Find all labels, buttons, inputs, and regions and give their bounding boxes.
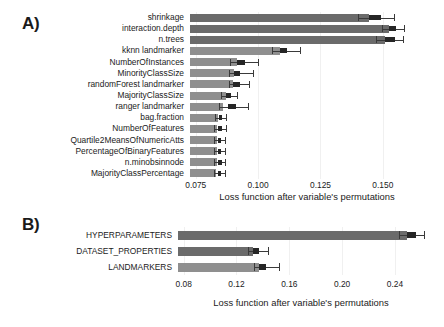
whisker-cap-low: [229, 81, 230, 88]
box-whisker-box: [219, 115, 222, 120]
whisker-cap-high: [225, 170, 226, 177]
bar: [190, 92, 226, 100]
panel-a-x-axis-title: Loss function after variable's permutati…: [190, 191, 424, 202]
whisker-cap-high: [249, 81, 250, 88]
whisker-cap-low: [214, 170, 215, 177]
y-axis-label: MajorityClassPercentage: [0, 169, 184, 177]
bar: [190, 14, 369, 22]
whisker-line: [254, 267, 279, 268]
bar: [190, 169, 216, 177]
y-axis-label: kknn landmarker: [0, 46, 184, 54]
y-axis-label: shrinkage: [0, 13, 184, 21]
bar: [190, 147, 217, 155]
whisker-cap-high: [424, 231, 425, 239]
bar: [190, 36, 385, 44]
y-axis-label: HYPERPARAMETERS: [0, 231, 172, 239]
x-axis-tick-label: 0.150: [361, 180, 405, 190]
bar: [190, 114, 218, 122]
bar: [190, 47, 280, 55]
whisker-cap-low: [399, 231, 400, 239]
bar: [178, 231, 407, 240]
x-axis-tick-label: 0.12: [214, 279, 258, 289]
x-axis-tick-label: 0.100: [236, 180, 280, 190]
y-axis-label: MajorityClassSize: [0, 91, 184, 99]
box-whisker-box: [228, 104, 236, 109]
box-whisker-box: [389, 26, 396, 31]
bar: [190, 125, 217, 133]
whisker-cap-low: [214, 137, 215, 144]
panel-a: A) shrinkageinteraction.depthn.treeskknn…: [0, 0, 444, 205]
y-axis-label: randomForest landmarker: [0, 80, 184, 88]
y-axis-label: interaction.depth: [0, 24, 184, 32]
box-whisker-box: [226, 93, 231, 98]
whisker-cap-high: [268, 247, 269, 255]
y-axis-label: n.trees: [0, 35, 184, 43]
y-axis-label: bag.fraction: [0, 113, 184, 121]
box-whisker-box: [218, 138, 221, 143]
whisker-cap-low: [214, 125, 215, 132]
box-whisker-box: [385, 37, 395, 42]
whisker-cap-low: [248, 247, 249, 255]
bar: [190, 136, 217, 144]
box-whisker-box: [218, 160, 221, 165]
x-axis-tick-label: 0.075: [174, 180, 218, 190]
figure-root: A) shrinkageinteraction.depthn.treeskknn…: [0, 0, 444, 327]
whisker-cap-low: [229, 70, 230, 77]
y-axis-label: MinorityClassSize: [0, 69, 184, 77]
box-whisker-box: [237, 60, 245, 65]
whisker-cap-low: [272, 47, 273, 54]
box-whisker-box: [369, 15, 381, 20]
whisker-cap-high: [225, 159, 226, 166]
box-whisker-box: [218, 149, 221, 154]
bar: [190, 158, 217, 166]
whisker-cap-low: [254, 263, 255, 271]
whisker-cap-high: [225, 148, 226, 155]
y-axis-label: PercentageOfBinaryFeatures: [0, 147, 184, 155]
y-axis-label: LANDMARKERS: [0, 263, 172, 271]
box-whisker-box: [407, 232, 416, 238]
whisker-cap-high: [253, 70, 254, 77]
box-whisker-box: [259, 264, 266, 270]
y-axis-label: ranger landmarker: [0, 102, 184, 110]
bar: [178, 247, 253, 256]
whisker-cap-high: [226, 114, 227, 121]
whisker-cap-high: [394, 14, 395, 21]
y-axis-label: DATASET_PROPERTIES: [0, 247, 172, 255]
x-axis-tick-label: 0.20: [320, 279, 364, 289]
whisker-cap-low: [382, 25, 383, 32]
box-whisker-box: [280, 48, 288, 53]
bar: [190, 80, 233, 88]
bar: [190, 69, 234, 77]
box-whisker-box: [218, 171, 221, 176]
whisker-cap-high: [237, 92, 238, 99]
bar: [178, 263, 259, 272]
box-whisker-box: [233, 82, 240, 87]
whisker-cap-high: [404, 25, 405, 32]
whisker-cap-low: [358, 14, 359, 21]
bar: [190, 25, 389, 33]
whisker-cap-high: [300, 47, 301, 54]
whisker-cap-low: [221, 92, 222, 99]
whisker-cap-high: [226, 125, 227, 132]
x-axis-tick-label: 0.125: [298, 180, 342, 190]
panel-b-x-axis-title: Loss function after variable's permutati…: [178, 297, 424, 308]
whisker-cap-low: [214, 148, 215, 155]
y-axis-label: NumberOfFeatures: [0, 124, 184, 132]
x-axis-tick-label: 0.16: [267, 279, 311, 289]
whisker-cap-low: [215, 114, 216, 121]
panel-b: B) HYPERPARAMETERSDATASET_PROPERTIESLAND…: [0, 205, 444, 327]
x-axis-tick-label: 0.24: [373, 279, 417, 289]
y-axis-label: NumberOfInstances: [0, 58, 184, 66]
whisker-line: [229, 73, 252, 74]
whisker-cap-high: [403, 36, 404, 43]
whisker-cap-low: [230, 59, 231, 66]
y-axis-label: n.minobsinnode: [0, 158, 184, 166]
bar: [190, 103, 223, 111]
whisker-cap-high: [279, 263, 280, 271]
x-axis-tick-label: 0.08: [162, 279, 206, 289]
whisker-cap-low: [376, 36, 377, 43]
y-axis-label: Quartile2MeansOfNumericAtts: [0, 136, 184, 144]
whisker-cap-low: [214, 159, 215, 166]
box-whisker-box: [218, 126, 221, 131]
whisker-cap-high: [248, 103, 249, 110]
